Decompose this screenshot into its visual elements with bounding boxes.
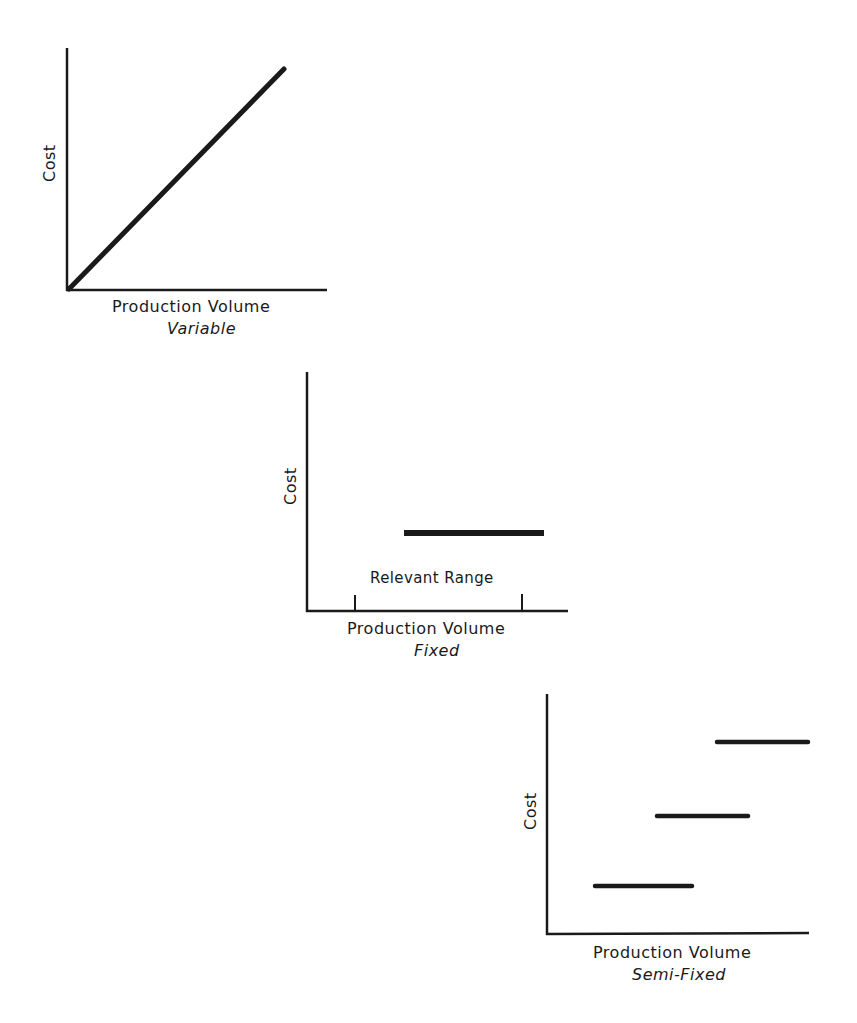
y-axis-label: Cost bbox=[521, 792, 540, 830]
x-axis-label: Production Volume bbox=[593, 943, 751, 962]
chart-caption: Semi-Fixed bbox=[632, 965, 726, 984]
semifixed-chart-plot bbox=[0, 0, 857, 1023]
x-axis bbox=[546, 933, 809, 934]
